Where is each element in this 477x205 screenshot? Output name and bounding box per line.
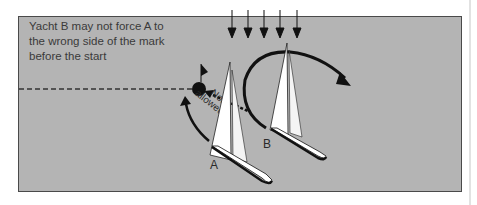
- yacht-a-path-arrow: [186, 104, 209, 141]
- yacht-a-arrowhead-icon: [180, 96, 191, 106]
- yacht-a-label: A: [210, 158, 218, 172]
- yacht-b-label: B: [263, 137, 271, 151]
- wind-arrows-icon: [228, 10, 301, 38]
- diagram-illustration: Not allowed A B: [0, 0, 477, 205]
- yacht-a-icon: [210, 62, 272, 183]
